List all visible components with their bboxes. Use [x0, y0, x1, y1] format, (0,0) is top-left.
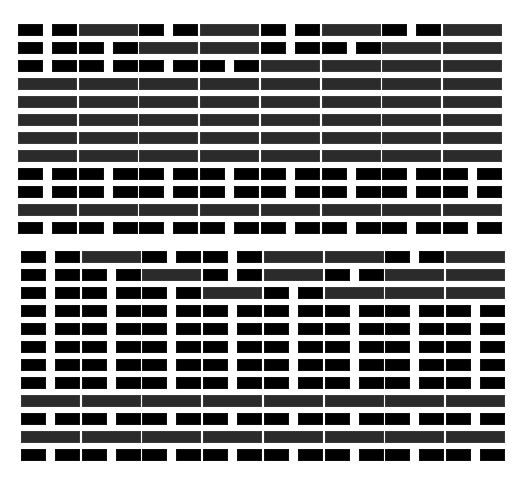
black-segment	[416, 24, 441, 36]
black-segment	[234, 168, 259, 180]
black-pair-cell	[446, 359, 505, 371]
gray-bar-cell	[382, 42, 441, 54]
black-segment	[55, 287, 80, 299]
gray-bar-cell	[443, 42, 502, 54]
black-segment	[82, 377, 107, 389]
black-segment	[322, 168, 347, 180]
gray-bar-cell	[79, 78, 138, 90]
black-pair-cell	[82, 323, 141, 335]
gray-bar	[385, 431, 444, 443]
pattern-row	[18, 96, 508, 108]
pattern-row	[18, 114, 508, 126]
black-segment	[55, 341, 80, 353]
black-pair-cell	[203, 251, 262, 263]
black-segment	[298, 341, 323, 353]
gray-bar-cell	[264, 395, 323, 407]
gray-bar-cell	[322, 150, 381, 162]
black-pair-cell	[203, 323, 262, 335]
gray-bar	[21, 431, 80, 443]
black-segment	[446, 341, 471, 353]
black-pair-cell	[382, 222, 441, 234]
black-pair-cell	[18, 60, 77, 72]
black-segment	[261, 24, 286, 36]
black-segment	[52, 222, 77, 234]
black-pair-cell	[82, 287, 141, 299]
black-pair-cell	[325, 359, 384, 371]
black-pair-cell	[446, 377, 505, 389]
black-segment	[116, 341, 141, 353]
gray-bar-cell	[261, 150, 320, 162]
gray-bar-cell	[261, 114, 320, 126]
gray-bar	[200, 42, 259, 54]
black-pair-cell	[264, 323, 323, 335]
black-pair-cell	[385, 323, 444, 335]
black-pair-cell	[385, 377, 444, 389]
gray-bar	[18, 96, 77, 108]
gray-bar-cell	[261, 204, 320, 216]
gray-bar-cell	[18, 96, 77, 108]
black-pair-cell	[203, 359, 262, 371]
black-segment	[477, 186, 502, 198]
gray-bar	[200, 204, 259, 216]
black-segment	[82, 341, 107, 353]
gray-bar-cell	[443, 96, 502, 108]
black-pair-cell	[79, 186, 138, 198]
pattern-row	[18, 168, 508, 180]
gray-bar	[82, 251, 141, 263]
black-segment	[82, 449, 107, 461]
black-segment	[176, 341, 201, 353]
pattern-row	[21, 449, 511, 461]
black-pair-cell	[18, 24, 77, 36]
black-segment	[237, 377, 262, 389]
gray-bar-cell	[79, 132, 138, 144]
gray-bar-cell	[443, 132, 502, 144]
pattern-row	[21, 305, 511, 317]
gray-bar-cell	[443, 150, 502, 162]
black-segment	[419, 305, 444, 317]
gray-bar	[325, 287, 384, 299]
black-segment	[382, 222, 407, 234]
pattern-row	[18, 42, 508, 54]
black-pair-cell	[446, 341, 505, 353]
gray-bar	[203, 395, 262, 407]
gray-bar-cell	[200, 78, 259, 90]
black-segment	[203, 269, 228, 281]
gray-bar	[322, 132, 381, 144]
gray-bar	[443, 114, 502, 126]
black-pair-cell	[261, 186, 320, 198]
black-segment	[480, 413, 505, 425]
black-segment	[480, 359, 505, 371]
black-segment	[237, 305, 262, 317]
black-segment	[116, 359, 141, 371]
black-segment	[359, 413, 384, 425]
black-segment	[325, 377, 350, 389]
black-segment	[203, 323, 228, 335]
black-segment	[203, 449, 228, 461]
black-pair-cell	[142, 413, 201, 425]
gray-bar-cell	[446, 395, 505, 407]
gray-bar-cell	[79, 114, 138, 126]
black-segment	[480, 341, 505, 353]
gray-bar	[79, 204, 138, 216]
black-segment	[52, 186, 77, 198]
gray-bar	[446, 431, 505, 443]
pattern-row	[21, 359, 511, 371]
black-pair-cell	[261, 24, 320, 36]
black-pair-cell	[142, 323, 201, 335]
pattern-row	[21, 413, 511, 425]
gray-bar	[79, 114, 138, 126]
black-segment	[385, 251, 410, 263]
black-pair-cell	[82, 377, 141, 389]
black-segment	[55, 323, 80, 335]
black-segment	[264, 341, 289, 353]
gray-bar-cell	[446, 251, 505, 263]
gray-bar	[325, 395, 384, 407]
gray-bar-cell	[443, 60, 502, 72]
gray-bar	[264, 269, 323, 281]
black-segment	[139, 186, 164, 198]
black-segment	[419, 413, 444, 425]
black-pair-cell	[385, 413, 444, 425]
black-segment	[446, 449, 471, 461]
black-segment	[443, 222, 468, 234]
gray-bar	[79, 150, 138, 162]
